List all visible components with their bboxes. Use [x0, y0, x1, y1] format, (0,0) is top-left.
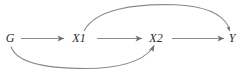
node-label-g: G: [6, 31, 15, 45]
edge-g-to-x1: [21, 36, 64, 42]
edge-x1-to-y-curve: [84, 5, 229, 31]
node-label-y: Y: [229, 31, 237, 45]
edge-x1-to-y: [84, 5, 230, 32]
edge-g-to-x2: [11, 45, 155, 69]
edge-x1-to-x2: [97, 36, 142, 42]
edge-x2-to-y: [172, 36, 224, 42]
node-label-x1: X1: [71, 31, 85, 45]
node-label-x2: X2: [148, 31, 162, 45]
edge-g-to-x2-curve: [11, 47, 153, 69]
dag-canvas: G X1 X2 Y: [0, 0, 243, 75]
edge-g-to-x2-arrowhead: [149, 45, 155, 52]
causal-diagram: G X1 X2 Y: [0, 0, 243, 75]
